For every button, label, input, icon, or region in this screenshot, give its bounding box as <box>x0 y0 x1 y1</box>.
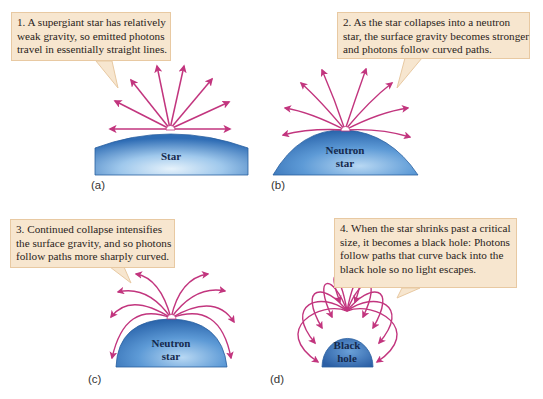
black-hole-label: Black hole <box>322 339 372 364</box>
neutron-star-label-line: star <box>146 350 196 363</box>
callout-c-line: follow paths more sharply curved. <box>16 250 169 264</box>
callout-b-line: star, the surface gravity becomes strong… <box>343 30 524 44</box>
callout-b: 2. As the star collapses into a neutron … <box>337 12 530 59</box>
neutron-star-label-line: Neutron <box>320 144 370 157</box>
callout-tail-b <box>397 58 422 88</box>
neutron-star-label-line: Neutron <box>146 337 196 350</box>
callout-a-line: travel in essentially straight lines. <box>17 43 165 57</box>
panel-label-c: (c) <box>88 373 101 385</box>
panel-label-d: (d) <box>270 373 284 385</box>
straight-photon-paths <box>110 66 230 129</box>
callout-tail-c <box>110 267 131 283</box>
star-label-text: Star <box>146 150 196 163</box>
callout-d-line: size, it becomes a black hole: Photons <box>340 236 511 250</box>
panel-label-a: (a) <box>91 179 105 191</box>
callout-c-line: 3. Continued collapse intensifies <box>16 223 169 237</box>
black-hole-label-line: hole <box>322 352 372 365</box>
callout-d-line: black hole so no light escapes. <box>340 263 511 277</box>
callout-d-line: 4. When the star shrinks past a critical <box>340 222 511 236</box>
callout-b-line: 2. As the star collapses into a neutron <box>343 16 524 30</box>
panel-label-b: (b) <box>271 179 285 191</box>
callout-a: 1. A supergiant star has relatively weak… <box>11 12 171 61</box>
callout-b-line: and photons follow curved paths. <box>343 43 524 57</box>
neutron-star-label-c: Neutron star <box>146 337 196 362</box>
callout-c-line: the surface gravity, and so photons <box>16 237 169 251</box>
neutron-star-label-b: Neutron star <box>320 144 370 169</box>
callout-d: 4. When the star shrinks past a critical… <box>334 218 517 288</box>
black-hole-label-line: Black <box>322 339 372 352</box>
callout-c: 3. Continued collapse intensifies the su… <box>10 219 175 268</box>
callout-a-line: 1. A supergiant star has relatively <box>17 16 165 30</box>
neutron-star-label-line: star <box>320 157 370 170</box>
callout-d-line: follow paths that curve back into the <box>340 249 511 263</box>
callout-a-line: weak gravity, so emitted photons <box>17 30 165 44</box>
star-label: Star <box>146 150 196 163</box>
callout-tail-d <box>397 288 420 298</box>
callout-tail-a <box>96 61 118 88</box>
